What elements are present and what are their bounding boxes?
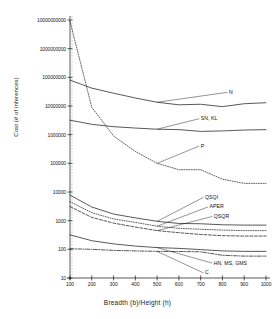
leader-line xyxy=(157,251,203,273)
x-axis-tick-label: 800 xyxy=(211,281,233,287)
y-axis-tick-label: 100000 xyxy=(50,160,66,166)
series-line-aper xyxy=(70,202,266,231)
chart-axes xyxy=(67,16,270,281)
y-axis-tick-label: 100 xyxy=(58,246,66,252)
x-axis-title: Breadth (b)/Height (h) xyxy=(0,299,275,306)
leader-line xyxy=(157,92,227,102)
series-label-p: P xyxy=(201,143,205,149)
series-line-n xyxy=(70,80,266,107)
series-line-qsqi xyxy=(70,195,266,225)
chart-figure: Cost (# of inferences) Breadth (b)/Heigh… xyxy=(0,0,275,319)
leader-line xyxy=(157,119,199,129)
x-axis-tick-label: 600 xyxy=(168,281,190,287)
series-line-qsqr xyxy=(70,207,266,237)
x-axis-tick-label: 1000 xyxy=(255,281,275,287)
series-label-sn-kl: SN, KL xyxy=(201,115,218,121)
series-label-qsqr: QSQR xyxy=(214,213,229,219)
leader-line xyxy=(157,197,203,221)
chart-series-group xyxy=(70,21,266,273)
series-label-hn-ms-gms: HN, MS, GMS xyxy=(214,260,247,266)
series-label-c: C xyxy=(205,269,209,275)
x-axis-tick-label: 200 xyxy=(81,281,103,287)
series-label-qsqi: QSQI xyxy=(205,194,218,200)
series-label-n: N xyxy=(229,89,233,95)
series-line-sn-kl xyxy=(70,120,266,131)
x-axis-tick-label: 100 xyxy=(59,281,81,287)
x-axis-tick-label: 400 xyxy=(124,281,146,287)
y-axis-tick-label: 100000000 xyxy=(42,74,66,80)
leader-line xyxy=(157,146,199,163)
y-axis-title: Cost (# of inferences) xyxy=(13,47,19,167)
y-axis-tick-label: 1000 xyxy=(55,218,66,224)
y-axis-tick-label: 10000 xyxy=(53,189,66,195)
y-axis-tick-label: 1000000000 xyxy=(40,46,66,52)
x-axis-tick-label: 900 xyxy=(233,281,255,287)
y-axis-tick-label: 1000000 xyxy=(48,132,66,138)
x-axis-tick-label: 700 xyxy=(190,281,212,287)
series-line-hn-ms-gms xyxy=(70,235,266,252)
y-axis-tick-label: 10000000000 xyxy=(37,17,66,23)
series-label-aper: APER xyxy=(209,203,223,209)
y-axis-tick-label: 10000000 xyxy=(45,103,66,109)
x-axis-tick-label: 300 xyxy=(103,281,125,287)
x-axis-tick-label: 500 xyxy=(146,281,168,287)
series-line-c xyxy=(70,249,266,256)
